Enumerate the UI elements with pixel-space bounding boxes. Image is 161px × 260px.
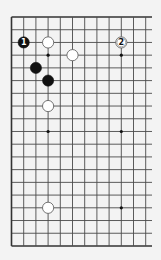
move-number-label: 1	[21, 38, 27, 47]
move-number-label: 2	[119, 38, 125, 47]
star-point-icon	[47, 130, 50, 133]
black-stone	[30, 62, 41, 73]
board-grid	[12, 17, 153, 246]
star-point-icon	[47, 54, 50, 57]
black-stone: 1	[18, 37, 29, 48]
black-stone	[43, 75, 54, 86]
go-board: 12	[0, 0, 161, 260]
white-stone	[67, 50, 78, 61]
white-stone	[43, 202, 54, 213]
white-stone: 2	[116, 37, 127, 48]
star-point-icon	[120, 206, 123, 209]
white-stone	[43, 100, 54, 111]
star-point-icon	[120, 54, 123, 57]
white-stone	[43, 37, 54, 48]
star-point-icon	[120, 130, 123, 133]
